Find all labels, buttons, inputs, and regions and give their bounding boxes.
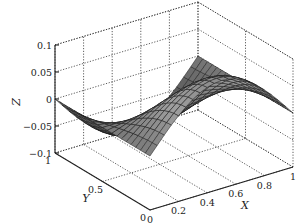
grid-line (169, 119, 264, 176)
x-tick-label: 0.8 (257, 180, 272, 191)
grid-line (198, 2, 293, 59)
x-tick-label: 0 (147, 214, 153, 224)
y-tick-label: 0 (140, 212, 146, 223)
y-tick-label: 0.5 (88, 184, 103, 195)
x-tick-label: 0.6 (228, 188, 243, 199)
surface-plot: −0.1−0.0500.050.100.20.40.60.8100.51 Z Y… (0, 0, 308, 224)
grid-line (55, 29, 198, 72)
axis-line (55, 153, 150, 210)
z-tick-label: 0.1 (37, 40, 52, 51)
surface-cell (281, 104, 293, 113)
z-tick-label: −0.05 (23, 121, 52, 132)
y-tick-label: 1 (45, 155, 51, 166)
z-tick-label: 0.05 (31, 67, 52, 78)
x-tick-label: 0.2 (171, 205, 186, 216)
x-tick-label: 1 (290, 171, 296, 182)
grid-line (103, 139, 246, 182)
grid-line (55, 2, 198, 45)
x-axis-label: X (240, 199, 250, 212)
z-tick-label: 0 (46, 94, 52, 105)
z-axis-label: Z (10, 98, 23, 107)
grid-line (198, 2, 293, 59)
surface-mesh (55, 56, 293, 156)
x-tick-label: 0.4 (200, 197, 215, 208)
